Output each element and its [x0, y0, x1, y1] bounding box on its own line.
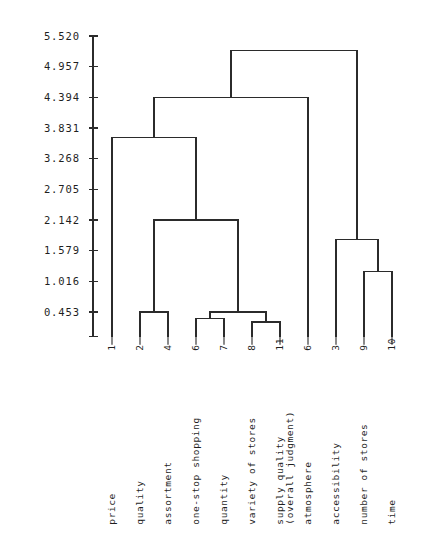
y-axis-tick-label-2: 4.394: [44, 91, 80, 103]
dendrogram-plot: 5.5204.9574.3943.8313.2682.7052.1421.579…: [0, 0, 443, 543]
dendrogram-link-m_8_11: [252, 322, 280, 337]
dendrogram-leaf-ticks: [112, 337, 392, 345]
dendrogram-links: [112, 51, 392, 337]
y-axis-tick-label-0: 5.520: [44, 30, 80, 42]
y-axis-tick-label-9: 0.453: [44, 306, 80, 318]
leaf-name-2: assortment: [162, 461, 173, 524]
leaf-index-6: 11: [274, 338, 285, 351]
leaf-name-4: quantity: [218, 474, 229, 525]
y-axis: [89, 36, 98, 337]
leaf-index-3: 6: [190, 344, 201, 350]
leaf-name-8: accessibility: [330, 443, 341, 525]
dendrogram-chart: 5.5204.9574.3943.8313.2682.7052.1421.579…: [0, 0, 443, 543]
dendrogram-link-m_3_910: [336, 240, 378, 337]
y-axis-tick-label-3: 3.831: [44, 122, 80, 134]
leaf-name-3: one-stop shopping: [190, 417, 201, 524]
y-axis-tick-label-7: 1.579: [44, 244, 80, 256]
leaf-index-10: 10: [386, 338, 397, 351]
leaf-index-9: 9: [358, 344, 369, 350]
dendrogram-link-m_6_7: [196, 319, 224, 337]
leaf-name-7: atmosphere: [302, 461, 313, 524]
leaf-name-9: number of stores: [358, 424, 369, 525]
y-axis-tick-labels: 5.5204.9574.3943.8313.2682.7052.1421.579…: [44, 30, 80, 318]
leaf-name-0: price: [106, 493, 117, 525]
dendrogram-link-m_24_67811: [154, 220, 238, 312]
leaf-index-2: 4: [162, 344, 173, 350]
leaf-name-cont-6: (overall judgment): [284, 411, 295, 525]
leaf-index-8: 3: [330, 344, 341, 350]
leaf-index-7: 6: [302, 344, 313, 350]
dendrogram-link-m_left_atmos: [154, 97, 308, 336]
y-axis-tick-label-1: 4.957: [44, 60, 80, 72]
dendrogram-leaf-labels: 1price2quality4assortment6one-stop shopp…: [106, 338, 397, 525]
y-axis-tick-label-4: 3.268: [44, 152, 80, 164]
leaf-name-5: variety of stores: [246, 417, 257, 524]
leaf-index-1: 2: [134, 344, 145, 350]
leaf-name-1: quality: [134, 480, 145, 524]
leaf-name-10: time: [386, 499, 397, 524]
leaf-index-4: 7: [218, 344, 229, 350]
dendrogram-link-m_9_10: [364, 271, 392, 336]
leaf-index-0: 1: [106, 344, 117, 350]
y-axis-tick-label-8: 1.016: [44, 275, 80, 287]
dendrogram-link-m_root: [231, 51, 357, 240]
dendrogram-link-m_67_811: [210, 312, 266, 322]
leaf-index-5: 8: [246, 344, 257, 350]
dendrogram-link-m_2_4: [140, 312, 168, 337]
y-axis-tick-label-5: 2.705: [44, 183, 80, 195]
y-axis-tick-label-6: 2.142: [44, 214, 80, 226]
